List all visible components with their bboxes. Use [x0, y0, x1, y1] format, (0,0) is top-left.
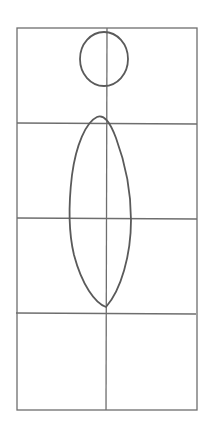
grid-row-line-1 [17, 123, 197, 124]
sketch-canvas [0, 0, 204, 428]
grid-row-line-2 [17, 218, 197, 219]
figure [70, 32, 131, 307]
grid-row-line-3 [16, 313, 196, 314]
head-circle [80, 32, 128, 86]
body-oval [70, 116, 131, 307]
